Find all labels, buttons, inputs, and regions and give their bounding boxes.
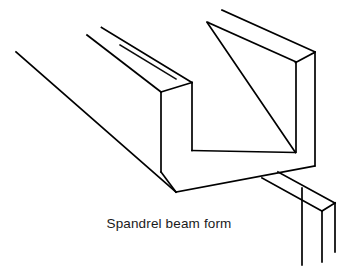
outer-panel-top-right-cap [296, 53, 315, 63]
soffit-inner-far-edge [192, 151, 296, 153]
soffit-outer-near-edge [176, 166, 315, 192]
left-long-lower-edge [16, 52, 176, 192]
end-face-top-edge [161, 83, 192, 93]
spandrel-beam-form-drawing [0, 0, 338, 276]
soffit-part [176, 151, 315, 193]
end-face-part [161, 83, 192, 193]
ledger-top-near-edge [262, 178, 322, 211]
left-extension-part [16, 52, 176, 192]
ledger-top-far-edge [278, 172, 335, 203]
near-wall-upper-edge-inner [102, 28, 193, 83]
ledger-strip-part [262, 172, 335, 211]
figure-caption: Spandrel beam form [0, 216, 338, 231]
ledger-end-cap-edge [322, 203, 335, 211]
figure-root: Spandrel beam form [0, 0, 338, 276]
near-wall-top-edges [87, 28, 192, 93]
near-wall-upper-edge-short [120, 45, 176, 79]
long-edge-top-far-line [222, 10, 315, 52]
outer-back-wall-part [207, 10, 315, 166]
